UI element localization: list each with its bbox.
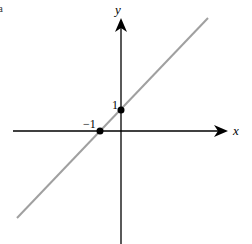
line-y-equals-x-plus-1 <box>17 18 208 218</box>
x-axis-label: x <box>232 123 239 138</box>
point-y-intercept <box>118 107 125 114</box>
y-intercept-label: 1 <box>112 98 118 112</box>
y-axis-label: y <box>113 2 121 17</box>
x-intercept-label: −1 <box>83 117 96 131</box>
point-x-intercept <box>97 128 104 135</box>
coordinate-plot: x y 1 −1 <box>0 0 252 244</box>
